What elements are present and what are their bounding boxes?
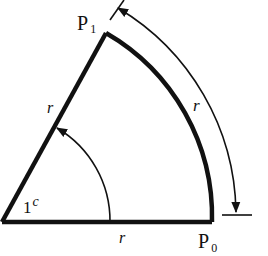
label-p0: P0 [198,230,217,255]
sector-diagram: P1 P0 r r r 1c [0,0,268,256]
slanted-radius [2,33,106,222]
angle-arrow-arc [57,128,110,222]
sector-arc [106,33,212,222]
arc-length-arrow [118,8,236,212]
label-arc-length: r [193,96,200,115]
label-radius-base: r [119,229,126,246]
label-radius-side: r [47,99,54,116]
label-angle: 1c [23,194,40,217]
label-p1: P1 [77,12,96,36]
